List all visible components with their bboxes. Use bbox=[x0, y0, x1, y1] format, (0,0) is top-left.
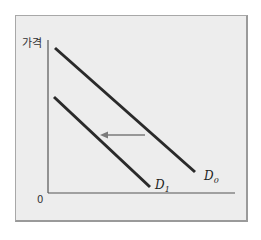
arrow-left-icon bbox=[100, 132, 108, 139]
curve-label-d1-sub: 1 bbox=[165, 185, 170, 194]
curve-label-d0: D0 bbox=[204, 169, 219, 185]
curve-label-d1-main: D bbox=[155, 178, 165, 192]
origin-label: 0 bbox=[37, 194, 43, 205]
curve-label-d1: D1 bbox=[155, 178, 170, 194]
demand-curve-d0 bbox=[55, 48, 195, 172]
demand-curve-d1 bbox=[54, 97, 150, 187]
curve-label-d0-sub: 0 bbox=[214, 176, 219, 185]
curve-label-d0-main: D bbox=[204, 169, 214, 183]
y-axis-label: 가격 bbox=[22, 34, 42, 50]
